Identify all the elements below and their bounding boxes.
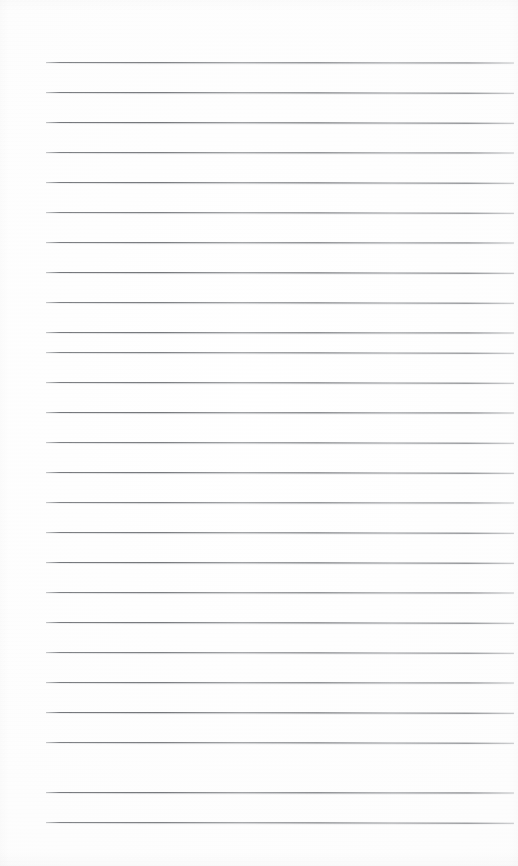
notepad-page (0, 0, 518, 866)
writing-area[interactable] (46, 50, 514, 836)
